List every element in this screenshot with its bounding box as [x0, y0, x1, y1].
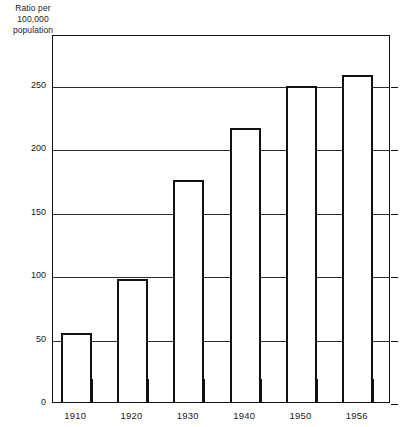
y-axis-label-line-1: Ratio per: [2, 3, 64, 14]
x-axis-separator: [204, 379, 205, 403]
y-axis-tick-mark: [391, 87, 398, 88]
y-axis-tick-mark: [391, 277, 398, 278]
bar: [342, 75, 373, 402]
bar: [230, 128, 261, 402]
bar: [173, 180, 204, 402]
x-axis-separator: [148, 379, 149, 403]
x-axis-separator: [373, 379, 374, 403]
bar-chart-figure: Ratio per 100,000 population 05010015020…: [0, 0, 417, 427]
y-axis-label-line-2: 100,000: [2, 14, 64, 25]
y-axis-tick-mark: [391, 341, 398, 342]
y-axis-tick-label: 200: [6, 144, 46, 153]
x-axis-separator: [92, 379, 93, 403]
bar: [117, 279, 148, 402]
bar: [286, 86, 317, 402]
y-axis-tick-mark: [391, 150, 398, 151]
gridline: [53, 87, 389, 88]
x-axis-tick-label: 1950: [273, 411, 329, 421]
gridline: [53, 341, 389, 342]
x-axis-tick-label: 1956: [329, 411, 385, 421]
y-axis-tick-mark: [391, 214, 398, 215]
x-axis-tick-label: 1920: [104, 411, 160, 421]
x-axis-tick-label: 1930: [160, 411, 216, 421]
x-axis-tick-label: 1910: [47, 411, 103, 421]
y-axis-tick-label: 100: [6, 271, 46, 280]
x-axis-separator: [317, 379, 318, 403]
x-axis-tick-label: 1940: [216, 411, 272, 421]
gridline: [53, 214, 389, 215]
y-axis-label: Ratio per 100,000 population: [2, 3, 64, 36]
y-axis-tick-mark: [391, 404, 398, 405]
plot-area: [52, 35, 390, 403]
gridline: [53, 150, 389, 151]
gridline: [53, 277, 389, 278]
y-axis-tick-label: 150: [6, 208, 46, 217]
plot-inner: [53, 36, 389, 402]
x-axis-separator: [261, 379, 262, 403]
y-axis-tick-label: 0: [6, 398, 46, 407]
y-axis-tick-label: 250: [6, 81, 46, 90]
y-axis-tick-label: 50: [6, 335, 46, 344]
bar: [61, 333, 92, 402]
